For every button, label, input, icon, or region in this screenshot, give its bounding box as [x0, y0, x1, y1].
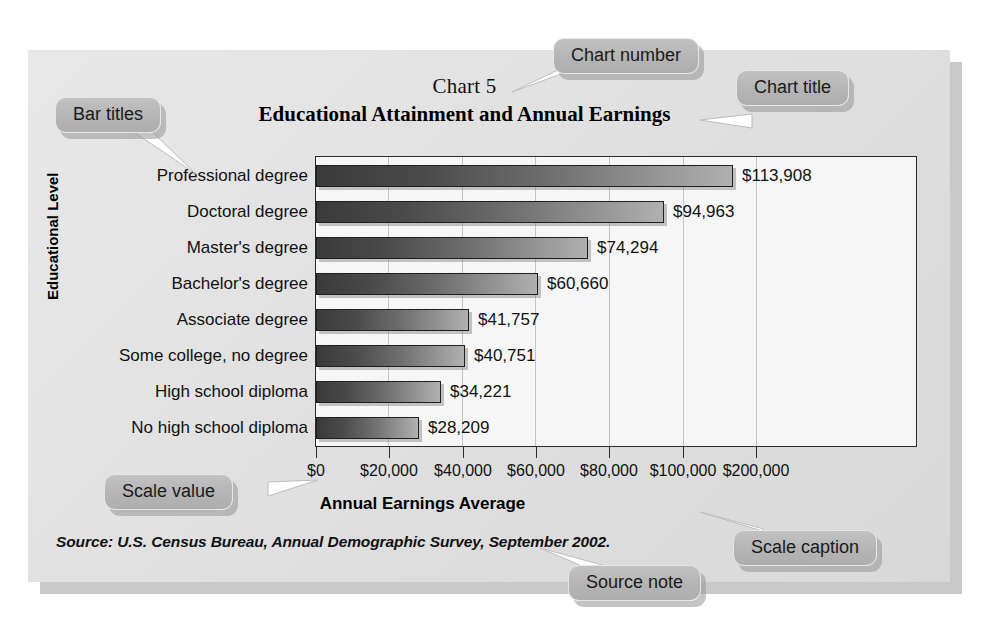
bar-row: $74,294	[316, 230, 916, 266]
x-axis-caption-text: Annual Earnings Average	[320, 494, 526, 513]
bar-row: $94,963	[316, 194, 916, 230]
bar-value-label: $28,209	[428, 418, 489, 438]
callout-chart-number[interactable]: Chart number	[553, 38, 699, 74]
callout-source-note[interactable]: Source note	[568, 565, 701, 601]
axis-tick-label: $60,000	[507, 462, 565, 480]
bar	[316, 237, 588, 259]
axis-tick	[463, 447, 464, 458]
callout-chart-title-label[interactable]: Chart title	[736, 70, 849, 106]
bar-value-label: $60,660	[547, 274, 608, 294]
bar	[316, 201, 664, 223]
figure-page: Chart 5 Educational Attainment and Annua…	[0, 0, 989, 621]
category-label: High school diploma	[8, 374, 308, 410]
axis-tick-label: $100,000	[650, 462, 717, 480]
bar-row: $28,209	[316, 410, 916, 446]
callout-chart-number-label[interactable]: Chart number	[553, 38, 699, 74]
callout-scale-value[interactable]: Scale value	[104, 474, 233, 510]
callout-scale-caption-label[interactable]: Scale caption	[733, 530, 877, 566]
bar-value-label: $34,221	[450, 382, 511, 402]
callout-bar-titles[interactable]: Bar titles	[55, 97, 161, 133]
bar-row: $113,908	[316, 158, 916, 194]
chart-number-text: Chart 5	[433, 74, 497, 98]
bar-value-label: $94,963	[673, 202, 734, 222]
bar-row: $41,757	[316, 302, 916, 338]
bar-series: $113,908$94,963$74,294$60,660$41,757$40,…	[316, 157, 916, 446]
bar-row: $60,660	[316, 266, 916, 302]
source-note: Source: U.S. Census Bureau, Annual Demog…	[56, 533, 610, 551]
axis-tick	[389, 447, 390, 458]
axis-tick	[683, 447, 684, 458]
bar-value-label: $41,757	[478, 310, 539, 330]
callout-scale-caption[interactable]: Scale caption	[733, 530, 877, 566]
bar-value-label: $40,751	[474, 346, 535, 366]
bar	[316, 345, 465, 367]
category-label: Some college, no degree	[8, 338, 308, 374]
bar	[316, 165, 733, 187]
y-axis-label: Educational Level	[44, 280, 61, 300]
bar	[316, 417, 419, 439]
bar	[316, 273, 538, 295]
axis-tick-label: $40,000	[434, 462, 492, 480]
axis-tick-label: $20,000	[360, 462, 418, 480]
callout-chart-title[interactable]: Chart title	[736, 70, 849, 106]
bar-row: $40,751	[316, 338, 916, 374]
axis-tick	[756, 447, 757, 458]
bar-value-label: $113,908	[742, 166, 812, 186]
callout-bar-titles-label[interactable]: Bar titles	[55, 97, 161, 133]
chart-title-text: Educational Attainment and Annual Earnin…	[259, 102, 671, 126]
axis-tick	[609, 447, 610, 458]
bar-row: $34,221	[316, 374, 916, 410]
callout-scale-value-label[interactable]: Scale value	[104, 474, 233, 510]
bar-value-label: $74,294	[597, 238, 658, 258]
axis-tick-label: $80,000	[580, 462, 638, 480]
category-label: Associate degree	[8, 302, 308, 338]
category-label: No high school diploma	[8, 410, 308, 446]
bar	[316, 381, 441, 403]
bar	[316, 309, 469, 331]
axis-tick	[536, 447, 537, 458]
axis-tick	[316, 447, 317, 458]
callout-source-note-label[interactable]: Source note	[568, 565, 701, 601]
axis-tick-label: $0	[307, 462, 325, 480]
axis-tick-label: $200,000	[723, 462, 790, 480]
